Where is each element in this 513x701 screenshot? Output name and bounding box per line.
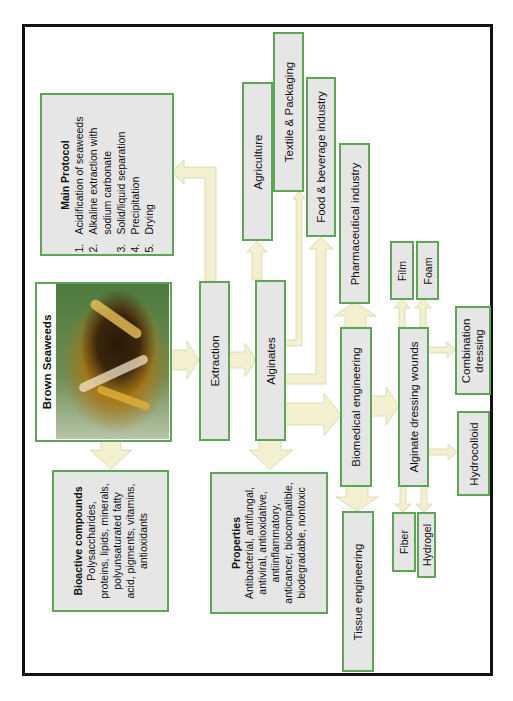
main-protocol-content: Main Protocol 1.Acidification of seaweed…	[58, 97, 156, 252]
pharma-box: Pharmaceutical industry	[339, 143, 370, 304]
arrow-dressing-to-film	[394, 299, 410, 327]
protocol-step: 2.Alkaline extraction with	[86, 97, 100, 252]
textile-box: Textile & Packaging	[273, 32, 304, 192]
agriculture-box: Agriculture	[242, 82, 273, 241]
hydrogel-label: Hydrogel	[420, 524, 433, 566]
hydrogel-box: Hydrogel	[417, 512, 436, 578]
arrow-dressing-to-hydrocolloid	[428, 444, 457, 460]
arrow-extraction-to-protocol	[172, 160, 216, 281]
biomedical-box: Biomedical engineering	[340, 327, 372, 487]
arrow-dressing-to-fiber	[395, 486, 411, 512]
seaweed-photo	[56, 284, 169, 439]
arrow-extraction-to-alginates	[229, 343, 256, 377]
protocol-step: 3.Solid/liquid separation	[114, 97, 128, 252]
food-label: Food & beverage industry	[315, 91, 328, 223]
arrow-alginates-to-food	[285, 237, 333, 384]
bioactive-title: Bioactive compounds	[72, 471, 85, 611]
biomedical-label: Biomedical engineering	[350, 347, 363, 467]
fiber-box: Fiber	[392, 512, 416, 572]
hydrocolloid-box: Hydrocolloid	[457, 411, 490, 496]
arrow-biomedical-to-dressing	[371, 387, 399, 425]
arrow-alginates-to-biomedical	[285, 393, 341, 436]
arrow-dressing-to-combination	[428, 342, 455, 358]
arrow-biomedical-to-pharma	[334, 302, 376, 327]
bioactive-box: Bioactive compounds Polysaccharides, pro…	[52, 470, 169, 612]
arrow-alginates-to-agriculture	[247, 241, 267, 280]
alginates-box: Alginates	[255, 280, 286, 441]
brown-seaweeds-label: Brown Seaweeds	[41, 315, 54, 410]
agriculture-label: Agriculture	[251, 134, 264, 189]
combination-box: Combination dressing	[455, 306, 491, 395]
arrow-alginates-to-properties	[249, 440, 293, 469]
main-protocol-title: Main Protocol	[58, 97, 72, 252]
protocol-step: 5.Drying	[142, 97, 156, 252]
bioactive-content: Bioactive compounds Polysaccharides, pro…	[72, 471, 150, 611]
protocol-step: 1.Acidification of seaweeds	[72, 97, 86, 252]
film-box: Film	[390, 241, 414, 300]
dressing-box: Alginate dressing wounds	[398, 327, 429, 487]
brown-seaweeds-label-area: Brown Seaweeds	[37, 284, 57, 440]
arrow-dressing-to-foam	[415, 299, 431, 327]
arrow-seaweeds-to-bioactive	[90, 441, 132, 469]
combination-label: Combination dressing	[460, 318, 486, 383]
arrow-seaweeds-to-extraction	[171, 341, 199, 379]
extraction-label: Extraction	[208, 335, 221, 386]
properties-box: Properties Antibacterial, antifungal, an…	[210, 472, 328, 614]
fiber-label: Fiber	[398, 530, 411, 554]
food-box: Food & beverage industry	[306, 77, 336, 237]
arrow-dressing-to-hydrogel	[416, 486, 432, 512]
protocol-step: sodium carbonate	[100, 97, 114, 252]
main-protocol-box: Main Protocol 1.Acidification of seaweed…	[40, 93, 174, 256]
alginates-label: Alginates	[264, 337, 277, 384]
properties-content: Properties Antibacterial, antifungal, an…	[230, 473, 308, 613]
foam-box: Foam	[416, 241, 439, 300]
extraction-box: Extraction	[199, 281, 230, 441]
tissue-box: Tissue engineering	[342, 511, 374, 672]
arrow-alginates-to-textile	[285, 191, 305, 346]
protocol-step: 4.Precipitation	[128, 97, 142, 252]
film-label: Film	[396, 261, 409, 281]
properties-title: Properties	[230, 473, 243, 613]
textile-label: Textile & Packaging	[282, 62, 295, 162]
dressing-label: Alginate dressing wounds	[407, 341, 420, 472]
pharma-label: Pharmaceutical industry	[348, 162, 361, 285]
foam-label: Foam	[421, 257, 434, 284]
arrow-biomedical-to-tissue	[336, 486, 378, 511]
tissue-label: Tissue engineering	[352, 543, 365, 640]
hydrocolloid-label: Hydrocolloid	[467, 422, 480, 485]
